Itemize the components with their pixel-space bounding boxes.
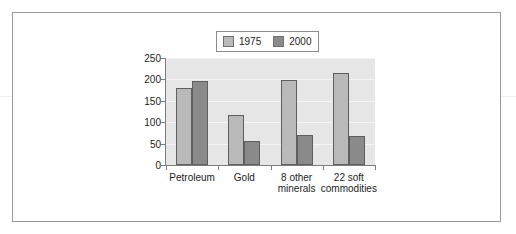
x-category-label: 22 soft commodities bbox=[309, 172, 389, 194]
x-tick-mark bbox=[166, 166, 167, 170]
x-tick-mark bbox=[323, 166, 324, 170]
bars-layer bbox=[166, 58, 375, 165]
x-axis-category-labels: PetroleumGold8 other minerals22 soft com… bbox=[150, 172, 395, 206]
legend-swatch-2000 bbox=[273, 36, 284, 47]
bar-1975-3 bbox=[281, 80, 297, 165]
legend-entry-2000: 2000 bbox=[273, 36, 311, 47]
y-tick-mark bbox=[161, 165, 165, 166]
bar-1975-2 bbox=[228, 115, 244, 166]
bar-2000-3 bbox=[297, 135, 313, 165]
y-axis-tick-labels: 050100150200250 bbox=[130, 58, 161, 165]
x-tick-mark bbox=[218, 166, 219, 170]
y-tick-label: 200 bbox=[144, 74, 161, 85]
y-tick-label: 250 bbox=[144, 53, 161, 64]
y-tick-label: 150 bbox=[144, 95, 161, 106]
y-tick-mark bbox=[161, 122, 165, 123]
y-tick-mark bbox=[161, 58, 165, 59]
x-tick-mark bbox=[271, 166, 272, 170]
legend-swatch-1975 bbox=[223, 36, 234, 47]
bar-1975-1 bbox=[176, 88, 192, 165]
y-tick-mark bbox=[161, 144, 165, 145]
y-tick-label: 100 bbox=[144, 117, 161, 128]
bar-1975-4 bbox=[333, 73, 349, 165]
legend-label-1975: 1975 bbox=[239, 37, 261, 47]
legend-entry-1975: 1975 bbox=[223, 36, 261, 47]
y-tick-mark bbox=[161, 101, 165, 102]
chart-legend: 1975 2000 bbox=[216, 31, 319, 52]
bar-2000-4 bbox=[349, 136, 365, 165]
bar-chart-figure: 1975 2000 050100150200250 PetroleumGold8… bbox=[0, 0, 516, 234]
bar-2000-1 bbox=[192, 81, 208, 165]
legend-label-2000: 2000 bbox=[289, 37, 311, 47]
y-tick-label: 50 bbox=[150, 138, 161, 149]
x-tick-mark bbox=[375, 166, 376, 170]
bar-2000-2 bbox=[244, 141, 260, 165]
y-tick-mark bbox=[161, 79, 165, 80]
